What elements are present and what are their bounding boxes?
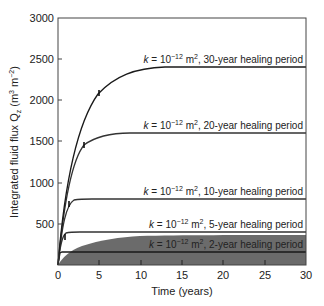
svg-text:2500: 2500 — [30, 53, 54, 65]
svg-text:5: 5 — [96, 269, 102, 281]
y-axis-label: Integrated fluid flux Qz (m3 m−2) — [8, 66, 22, 218]
svg-text:2000: 2000 — [30, 94, 54, 106]
chart: 500 1000 1500 2000 2500 3000 0 5 10 15 2… — [0, 0, 324, 306]
svg-text:1000: 1000 — [30, 177, 54, 189]
svg-text:20: 20 — [217, 269, 229, 281]
annotation-30yr: k = 10−12 m2, 30-year healing period — [144, 53, 304, 65]
svg-text:30: 30 — [300, 269, 312, 281]
svg-text:10: 10 — [135, 269, 147, 281]
annotation-5yr: k = 10−12 m2, 5-year healing period — [149, 218, 303, 230]
annotation-2yr: k = 10−12 m2, 2-year healing period — [149, 238, 303, 250]
x-tick-labels: 0 5 10 15 20 25 30 — [55, 269, 312, 281]
y-tick-labels: 500 1000 1500 2000 2500 3000 — [30, 12, 54, 230]
y-ticks — [58, 59, 62, 224]
x-axis-label: Time (years) — [151, 285, 212, 297]
svg-text:500: 500 — [36, 218, 54, 230]
svg-text:25: 25 — [259, 269, 271, 281]
markers — [65, 90, 99, 240]
annotation-20yr: k = 10−12 m2, 20-year healing period — [144, 119, 304, 131]
svg-text:1500: 1500 — [30, 135, 54, 147]
series-annotations: k = 10−12 m2, 30-year healing period k =… — [144, 53, 304, 250]
svg-text:15: 15 — [176, 269, 188, 281]
svg-text:3000: 3000 — [30, 12, 54, 24]
annotation-10yr: k = 10−12 m2, 10-year healing period — [144, 185, 304, 197]
svg-text:0: 0 — [55, 269, 61, 281]
